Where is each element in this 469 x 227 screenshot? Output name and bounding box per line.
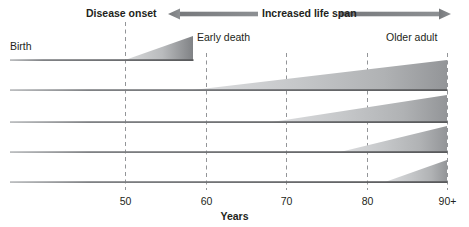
baseline-row-2: [10, 89, 448, 91]
tick-label-50: 50: [105, 196, 146, 207]
series-row-4: [10, 126, 448, 153]
tick-label-90: 90+: [427, 196, 468, 207]
arrow-left-icon: [168, 9, 180, 20]
baseline-row-3: [10, 121, 448, 123]
early-death-label: Early death: [197, 32, 250, 43]
series-row-5: [10, 160, 448, 183]
baseline-row-1: [10, 59, 194, 61]
tick-label-60: 60: [186, 196, 227, 207]
wedge-row-2: [193, 60, 447, 90]
series-row-3: [10, 95, 448, 123]
increased-life-span-label: Increased life span: [262, 8, 357, 19]
figure-container: Disease onset Increased life span Birth …: [0, 0, 469, 227]
series-row-2: [10, 60, 448, 91]
series-row-1: [10, 36, 194, 61]
arrow-left-shaft: [180, 12, 258, 17]
wedge-row-4: [340, 126, 447, 152]
wedge-row-3: [272, 95, 447, 122]
wedge-row-5: [385, 160, 447, 182]
header-arrow-left-group: [168, 9, 258, 20]
tick-label-70: 70: [266, 196, 307, 207]
birth-label: Birth: [10, 41, 32, 52]
arrow-right-icon: [439, 9, 451, 20]
baseline-row-5: [10, 181, 448, 183]
baseline-row-4: [10, 151, 448, 153]
disease-onset-label: Disease onset: [86, 8, 157, 19]
older-adult-label: Older adult: [386, 32, 437, 43]
wedge-row-1: [125, 36, 193, 60]
tick-label-80: 80: [347, 196, 388, 207]
x-axis-title: Years: [0, 211, 469, 222]
header-arrow-right-group: [340, 9, 451, 20]
